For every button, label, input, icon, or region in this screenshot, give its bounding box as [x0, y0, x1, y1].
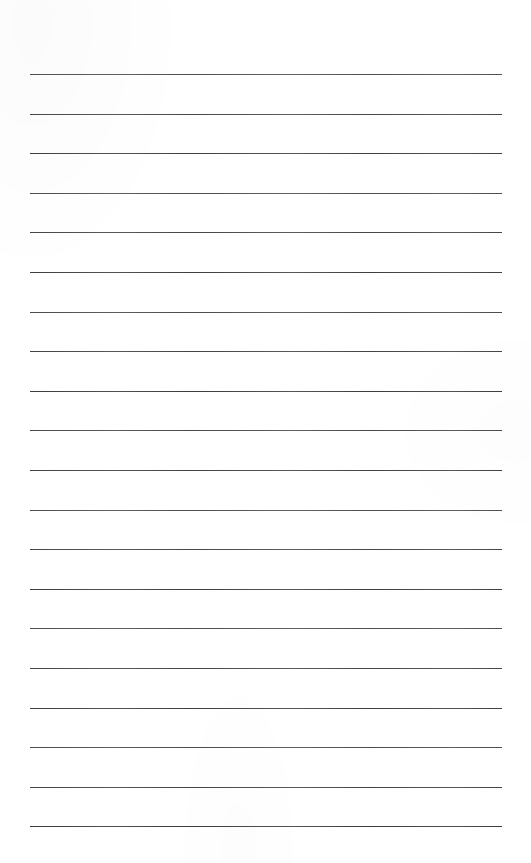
rule-line — [30, 470, 502, 471]
rule-line — [30, 232, 502, 233]
writing-line[interactable] — [30, 633, 502, 667]
writing-line[interactable] — [30, 39, 502, 73]
rule-line — [30, 510, 502, 511]
rule-line — [30, 628, 502, 629]
rule-line — [30, 272, 502, 273]
writing-line[interactable] — [30, 197, 502, 231]
rule-line — [30, 74, 502, 75]
writing-line[interactable] — [30, 395, 502, 429]
rule-line — [30, 312, 502, 313]
writing-line[interactable] — [30, 316, 502, 350]
rule-line — [30, 549, 502, 550]
rule-line — [30, 391, 502, 392]
writing-line[interactable] — [30, 673, 502, 707]
rule-line — [30, 153, 502, 154]
writing-line[interactable] — [30, 514, 502, 548]
writing-line[interactable] — [30, 79, 502, 113]
rule-line — [30, 747, 502, 748]
rule-line — [30, 787, 502, 788]
writing-line[interactable] — [30, 554, 502, 588]
rule-line — [30, 351, 502, 352]
rule-line — [30, 193, 502, 194]
writing-line[interactable] — [30, 712, 502, 746]
writing-line[interactable] — [30, 356, 502, 390]
rule-line — [30, 430, 502, 431]
writing-line[interactable] — [30, 752, 502, 786]
rule-line — [30, 668, 502, 669]
writing-line[interactable] — [30, 118, 502, 152]
writing-line[interactable] — [30, 791, 502, 825]
writing-line[interactable] — [30, 435, 502, 469]
rule-line — [30, 114, 502, 115]
rule-line — [30, 826, 502, 827]
writing-line[interactable] — [30, 158, 502, 192]
writing-line[interactable] — [30, 475, 502, 509]
writing-line[interactable] — [30, 593, 502, 627]
rule-line — [30, 589, 502, 590]
rule-line — [30, 708, 502, 709]
lined-paper-page — [0, 0, 531, 863]
writing-line[interactable] — [30, 237, 502, 271]
writing-line[interactable] — [30, 277, 502, 311]
